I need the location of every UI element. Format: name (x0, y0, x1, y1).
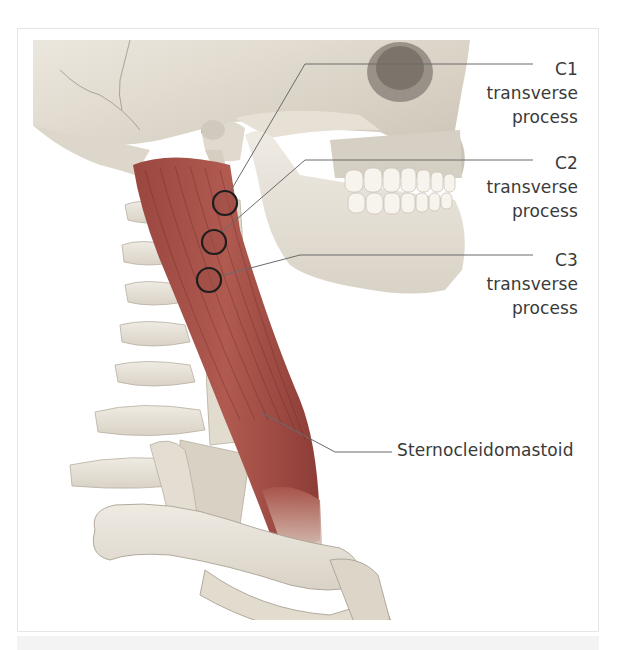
label-c2-line3: process (486, 199, 578, 223)
c1-marker (213, 191, 237, 215)
label-c1-line1: C1 (486, 57, 578, 81)
label-c1-line2: transverse (486, 81, 578, 105)
c3-marker (197, 268, 221, 292)
label-c1-transverse-process: C1 transverse process (486, 57, 578, 129)
label-c2-transverse-process: C2 transverse process (486, 151, 578, 223)
label-c3-line3: process (486, 296, 578, 320)
label-c3-line1: C3 (486, 248, 578, 272)
c2-marker (202, 230, 226, 254)
label-c3-transverse-process: C3 transverse process (486, 248, 578, 320)
label-c2-line2: transverse (486, 175, 578, 199)
label-c1-line3: process (486, 105, 578, 129)
teeth (330, 130, 462, 214)
label-c3-line2: transverse (486, 272, 578, 296)
label-sternocleidomastoid: Sternocleidomastoid (397, 438, 574, 462)
label-c2-line1: C2 (486, 151, 578, 175)
label-scm-text: Sternocleidomastoid (397, 438, 574, 462)
